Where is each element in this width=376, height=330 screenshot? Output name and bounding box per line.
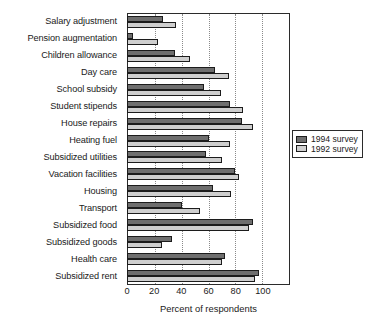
category-label: Salary adjustment [0,13,122,30]
category-label: Vacation facilities [0,166,122,183]
bar [127,141,230,147]
bar [127,174,239,180]
x-tick-label: 60 [203,287,213,296]
bar-group [128,200,289,217]
bar [127,124,253,130]
legend-item: 1994 survey [296,135,358,144]
category-label: Pension augmentation [0,30,122,47]
bar-group [128,31,289,48]
bar [127,191,231,197]
bar-group [128,14,289,31]
x-axis-ticks: 020406080100 [127,287,290,300]
bar-group [128,250,289,267]
bar-group [128,82,289,99]
bar-group [128,233,289,250]
bar [127,157,222,163]
category-label: Subsidized food [0,217,122,234]
bar-group [128,149,289,166]
bar-group [128,98,289,115]
category-label: Day care [0,64,122,81]
bar-group [128,183,289,200]
category-label: House repairs [0,115,122,132]
category-label: Health care [0,251,122,268]
bar [127,242,162,248]
category-label: Housing [0,183,122,200]
bar [127,90,221,96]
category-label: Subsidized rent [0,268,122,285]
category-axis: Salary adjustmentPension augmentationChi… [0,13,122,285]
x-tick-label: 80 [231,287,241,296]
x-tick-label: 0 [124,287,129,296]
bar [127,225,249,231]
bar [127,107,243,113]
bar-group [128,217,289,234]
bar-group [128,132,289,149]
bar-group [128,166,289,183]
bars-layer [128,14,289,284]
legend-item: 1992 survey [296,145,358,154]
x-tick-label: 100 [255,287,270,296]
category-label: Student stipends [0,98,122,115]
legend-swatch [296,136,307,143]
legend-label: 1992 survey [311,145,358,154]
category-label: Subsidized utilities [0,149,122,166]
x-tick-label: 20 [149,287,159,296]
x-tick-label: 40 [176,287,186,296]
bar [127,208,200,214]
bar-group [128,115,289,132]
bar-group [128,48,289,65]
bar [127,259,222,265]
legend-swatch [296,145,307,152]
category-label: Transport [0,200,122,217]
plot-area [127,13,290,285]
bar [127,276,255,282]
legend: 1994 survey1992 survey [292,130,363,158]
category-label: Subsidized goods [0,234,122,251]
x-axis-title: Percent of respondents [127,303,290,314]
bar-group [128,267,289,284]
bar-group [128,65,289,82]
bar-chart: Salary adjustmentPension augmentationChi… [0,0,376,330]
category-label: Heating fuel [0,132,122,149]
category-label: Children allowance [0,47,122,64]
bar [127,22,176,28]
bar [127,73,229,79]
category-label: School subsidy [0,81,122,98]
legend-label: 1994 survey [311,135,358,144]
bar [127,56,190,62]
bar [127,39,158,45]
